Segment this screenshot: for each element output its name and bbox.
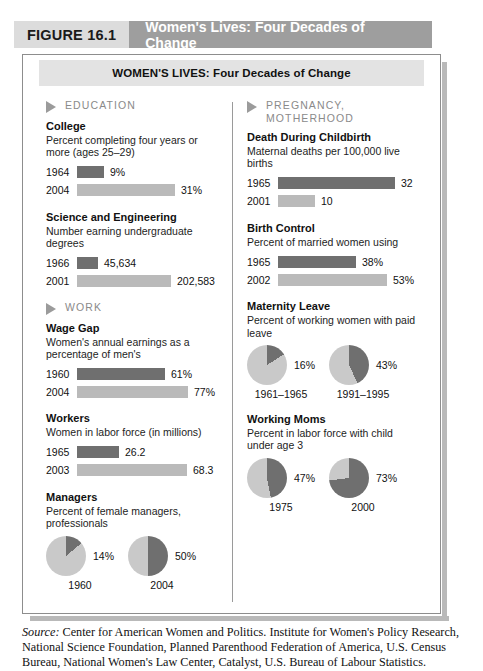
section-heading-label: PREGNANCY, MOTHERHOOD [266, 99, 419, 124]
bar-track: 45,634 [77, 257, 136, 269]
pie-item: 14%1960 [46, 536, 114, 591]
bar-row: 196532 [247, 176, 419, 191]
bar-value-label: 61% [171, 368, 192, 380]
bar-value-label: 45,634 [104, 257, 136, 269]
columns-container: EDUCATIONCollegePercent completing four … [46, 99, 419, 604]
pie-group: 47%197573%2000 [247, 458, 419, 513]
stat-block-title: Workers [46, 412, 222, 425]
stat-block-title: Death During Childbirth [247, 131, 419, 144]
bar-year-label: 1965 [46, 446, 77, 458]
pie-chart [247, 345, 287, 385]
section-heading: PREGNANCY, MOTHERHOOD [247, 99, 419, 124]
stat-block-subtitle: Women's annual earnings as a percentage … [46, 336, 222, 361]
bar-fill [278, 274, 387, 286]
triangle-marker-icon [247, 101, 257, 113]
bar-value-label: 9% [110, 166, 125, 178]
source-citation: Source: Center for American Women and Po… [22, 625, 462, 671]
bar-fill [77, 275, 171, 287]
source-text: Center for American Women and Politics. … [22, 625, 459, 669]
stat-block-title: Science and Engineering [46, 211, 222, 224]
source-prefix: Source: [22, 625, 59, 639]
bar-track: 77% [77, 386, 215, 398]
stat-block: Science and EngineeringNumber earning un… [46, 211, 222, 289]
bar-fill [77, 257, 98, 269]
stat-block: ManagersPercent of female managers, prof… [46, 491, 222, 591]
panel-banner-text: WOMEN'S LIVES: Four Decades of Change [112, 67, 350, 79]
bar-row: 196538% [247, 254, 419, 269]
stat-block-subtitle: Percent completing four years or more (a… [46, 134, 222, 159]
bar-track: 38% [278, 256, 383, 268]
bar-year-label: 2004 [46, 184, 77, 196]
section-heading: WORK [46, 301, 222, 315]
pie-value-label: 43% [376, 359, 397, 371]
bar-fill [278, 195, 315, 207]
stat-block-title: Managers [46, 491, 222, 504]
bar-value-label: 53% [393, 274, 414, 286]
bar-value-label: 38% [362, 256, 383, 268]
triangle-marker-icon [46, 101, 56, 113]
stat-block: CollegePercent completing four years or … [46, 120, 222, 198]
bar-row: 2001202,583 [46, 274, 222, 289]
stat-block-subtitle: Percent of female managers, professional… [46, 505, 222, 530]
bar-year-label: 2001 [247, 195, 278, 207]
stat-block-subtitle: Women in labor force (in millions) [46, 426, 222, 438]
bar-track: 61% [77, 368, 192, 380]
pie-chart [247, 458, 287, 498]
bar-track: 53% [278, 274, 414, 286]
pie-row: 16% [247, 345, 315, 385]
pie-period-label: 2000 [351, 501, 374, 513]
stat-block: Birth ControlPercent of married women us… [247, 222, 419, 287]
pie-value-label: 50% [175, 550, 196, 562]
bar-row: 196061% [46, 366, 222, 381]
stat-block-subtitle: Percent of married women using [247, 236, 419, 248]
pie-value-label: 16% [294, 359, 315, 371]
bar-fill [77, 464, 187, 476]
figure-title-band: Women's Lives: Four Decades of Change [129, 21, 432, 48]
pie-row: 50% [128, 536, 196, 576]
bar-fill [77, 166, 104, 178]
bar-fill [77, 446, 119, 458]
pie-value-label: 14% [93, 550, 114, 562]
pie-item: 50%2004 [128, 536, 196, 591]
pie-item: 47%1975 [247, 458, 315, 513]
bar-row: 19649% [46, 165, 222, 180]
panel-banner: WOMEN'S LIVES: Four Decades of Change [39, 60, 424, 86]
bar-row: 200477% [46, 384, 222, 399]
pie-item: 73%2000 [329, 458, 397, 513]
figure-number-label: FIGURE 16.1 [14, 21, 129, 48]
stat-block: Maternity LeavePercent of working women … [247, 300, 419, 400]
bar-value-label: 202,583 [177, 275, 215, 287]
bar-fill [77, 184, 175, 196]
infographic-panel: EDUCATIONCollegePercent completing four … [22, 54, 441, 614]
stat-block-subtitle: Maternal deaths per 100,000 live births [247, 145, 419, 170]
section-heading: EDUCATION [46, 99, 222, 113]
pie-group: 16%1961–196543%1991–1995 [247, 345, 419, 400]
bar-year-label: 2003 [46, 464, 77, 476]
bar-year-label: 2004 [46, 386, 77, 398]
stat-block: WorkersWomen in labor force (in millions… [46, 412, 222, 477]
bar-year-label: 1966 [46, 257, 77, 269]
right-column: PREGNANCY, MOTHERHOODDeath During Childb… [233, 99, 419, 604]
panel-shadow-right [442, 62, 447, 616]
bar-track: 9% [77, 166, 125, 178]
bar-fill [77, 368, 165, 380]
pie-chart [329, 345, 369, 385]
bar-value-label: 10 [321, 195, 333, 207]
stat-block-title: Working Moms [247, 413, 419, 426]
bar-year-label: 1965 [247, 256, 278, 268]
pie-period-label: 1960 [68, 579, 91, 591]
pie-row: 43% [329, 345, 397, 385]
bar-value-label: 31% [181, 184, 202, 196]
pie-chart [329, 458, 369, 498]
pie-value-label: 73% [376, 472, 397, 484]
stat-block-title: Wage Gap [46, 322, 222, 335]
bar-track: 68.3 [77, 464, 213, 476]
bar-track: 10 [278, 195, 333, 207]
pie-period-label: 1991–1995 [337, 388, 390, 400]
pie-value-label: 47% [294, 472, 315, 484]
bar-year-label: 2002 [247, 274, 278, 286]
triangle-marker-icon [46, 303, 56, 315]
bar-row: 200368.3 [46, 463, 222, 478]
pie-row: 47% [247, 458, 315, 498]
